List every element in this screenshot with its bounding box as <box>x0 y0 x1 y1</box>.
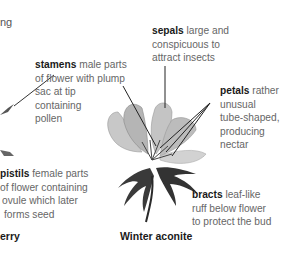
label-petals: petals rather unusual tube-shaped, produ… <box>220 84 279 152</box>
left-plant-fragment-2 <box>0 150 14 156</box>
label-stamens: stamens male parts of flower with plump … <box>35 58 127 126</box>
label-pistils: pistils female parts of flower containin… <box>0 167 88 221</box>
term-pistils: pistils <box>0 168 29 179</box>
term-sepals: sepals <box>152 25 184 36</box>
caption-winter-aconite: Winter aconite <box>120 230 192 242</box>
term-petals: petals <box>220 85 249 96</box>
term-bracts: bracts <box>192 189 223 200</box>
left-text-fragment: ng <box>0 16 12 30</box>
left-plant-fragment <box>0 104 14 115</box>
label-sepals: sepals large and conspicuous to attract … <box>152 24 229 65</box>
label-bracts: bracts leaf-like ruff below flower to pr… <box>192 188 271 229</box>
caption-left-fragment: erry <box>0 230 20 242</box>
term-stamens: stamens <box>35 59 76 70</box>
